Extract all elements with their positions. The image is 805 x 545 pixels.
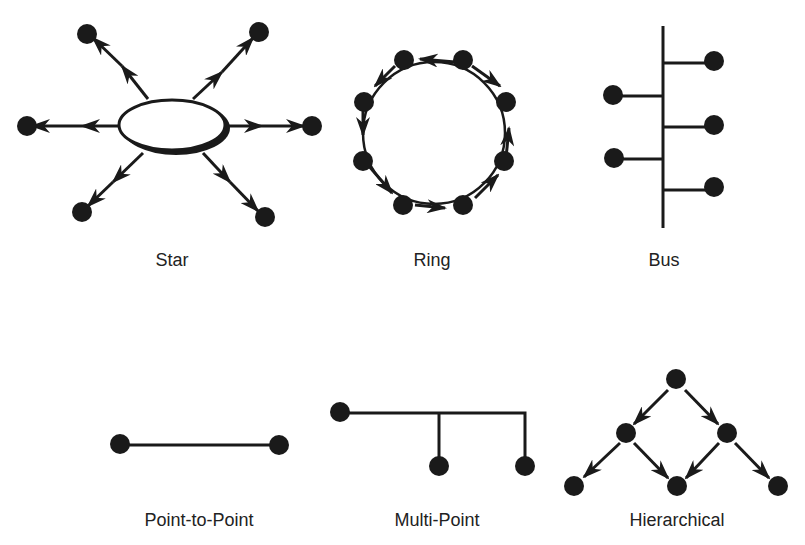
hierarchy-leaf-node: [667, 476, 687, 496]
bus-node: [603, 85, 623, 105]
star-node: [77, 24, 97, 44]
ring-node: [394, 50, 414, 70]
star-node: [17, 116, 37, 136]
label-hierarchical: Hierarchical: [629, 510, 724, 531]
star-spoke-lower-left: [88, 153, 143, 206]
star-node: [302, 116, 322, 136]
ring-node: [354, 92, 374, 112]
star-node: [249, 22, 269, 42]
p2p-node: [269, 435, 289, 455]
label-multi-point: Multi-Point: [394, 510, 479, 531]
ring-node: [393, 195, 413, 215]
ring-node: [494, 151, 514, 171]
network-topologies-diagram: [0, 0, 805, 545]
hierarchy-leaf-node: [564, 476, 584, 496]
multi-point-topology: [330, 402, 535, 476]
bus-topology: [603, 26, 724, 228]
bus-node: [704, 115, 724, 135]
multipoint-node: [429, 456, 449, 476]
bus-node: [604, 148, 624, 168]
hierarchy-node: [616, 423, 636, 443]
label-ring: Ring: [413, 250, 450, 271]
ring-node: [353, 151, 373, 171]
label-star: Star: [155, 250, 188, 271]
p2p-node: [110, 434, 130, 454]
star-node: [72, 202, 92, 222]
hierarchy-leaf-node: [768, 476, 788, 496]
hierarchical-topology: [564, 369, 788, 496]
star-hub: [119, 100, 225, 150]
ring-node: [496, 92, 516, 112]
star-spoke-upper-right: [193, 38, 253, 99]
star-node: [255, 207, 275, 227]
star-spoke-lower-right: [203, 153, 258, 211]
point-to-point-topology: [110, 434, 289, 455]
multipoint-node: [515, 456, 535, 476]
label-point-to-point: Point-to-Point: [144, 510, 253, 531]
ring-node: [453, 50, 473, 70]
star-spoke-upper-left: [93, 38, 148, 99]
label-bus: Bus: [648, 250, 679, 271]
hierarchy-root-node: [666, 369, 686, 389]
bus-node: [704, 177, 724, 197]
star-topology: [17, 22, 322, 227]
multipoint-node: [330, 402, 350, 422]
hierarchy-node: [717, 423, 737, 443]
ring-topology: [353, 50, 516, 215]
ring-node: [453, 195, 473, 215]
bus-node: [704, 51, 724, 71]
